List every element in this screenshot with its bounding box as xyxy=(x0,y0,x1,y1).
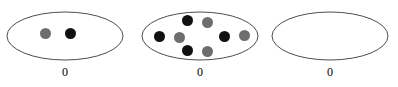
group-3-label: 0 xyxy=(272,66,388,78)
group-3-ellipse xyxy=(272,12,388,60)
group-3: 0 xyxy=(0,0,398,87)
set-diagram-figure: 000 xyxy=(0,0,398,87)
